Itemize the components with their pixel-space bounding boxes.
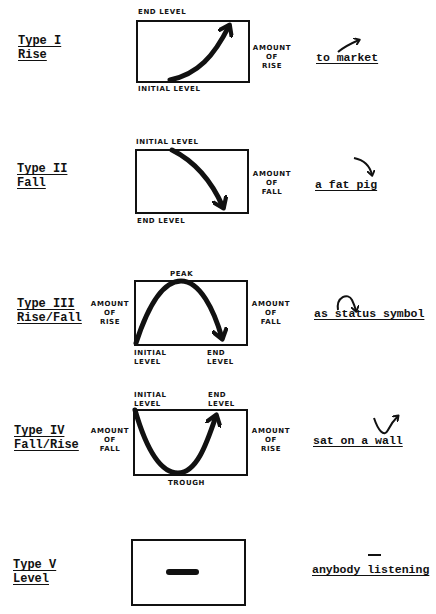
type-5-name: Level (13, 572, 56, 586)
label-line: FALL (251, 318, 291, 327)
fall-arrow-icon (172, 150, 223, 207)
amount-of-fall-label: AMOUNT OF FALL (89, 427, 131, 454)
type-3-label: Type III Rise/Fall (17, 297, 82, 325)
label-line: OF (89, 436, 131, 445)
initial-level-label: INITIAL LEVEL (134, 391, 167, 409)
type-1-number: Type I (18, 34, 61, 48)
label-line: AMOUNT (250, 427, 292, 436)
type-2-number: Type II (17, 162, 67, 176)
label-line: AMOUNT (251, 300, 291, 309)
label-line: INITIAL (134, 391, 167, 400)
rise-fall-arrow-icon (136, 281, 222, 343)
type-4-number: Type IV (14, 424, 79, 438)
small-fall-arrow-icon (354, 158, 372, 175)
label-line: LEVEL (134, 358, 167, 367)
type-1-name: Rise (18, 48, 61, 62)
label-line: AMOUNT (252, 44, 292, 53)
label-line: OF (252, 179, 292, 188)
fall-rise-arrow-icon (135, 410, 216, 473)
label-line: END (207, 349, 234, 358)
peak-label: PEAK (170, 270, 193, 279)
trough-label: TROUGH (168, 479, 205, 488)
label-line: AMOUNT (252, 170, 292, 179)
end-level-label: END LEVEL (208, 391, 235, 409)
example-phrase-3: as status symbol (314, 307, 424, 320)
rise-arrow-icon (170, 26, 229, 80)
type-4-label: Type IV Fall/Rise (14, 424, 79, 452)
label-line: LEVEL (208, 400, 235, 409)
type-3-name: Rise/Fall (17, 311, 82, 325)
label-line: RISE (250, 445, 292, 454)
label-line: OF (250, 436, 292, 445)
initial-level-label: INITIAL LEVEL (138, 85, 200, 94)
end-level-label: END LEVEL (138, 8, 186, 17)
end-level-label: END LEVEL (137, 217, 185, 226)
label-line: INITIAL (134, 349, 167, 358)
label-line: OF (251, 309, 291, 318)
type-3-number: Type III (17, 297, 82, 311)
amount-of-fall-label: AMOUNT OF FALL (252, 170, 292, 197)
example-phrase-4: sat on a wall (313, 434, 403, 447)
type-2-name: Fall (17, 176, 67, 190)
label-line: RISE (252, 62, 292, 71)
label-line: LEVEL (134, 400, 167, 409)
initial-level-label: INITIAL LEVEL (136, 138, 198, 147)
amount-of-fall-label: AMOUNT OF FALL (251, 300, 291, 327)
end-level-label: END LEVEL (207, 349, 234, 367)
example-phrase-2: a fat pig (315, 178, 377, 191)
type-5-number: Type V (13, 558, 56, 572)
amount-of-rise-label: AMOUNT OF RISE (250, 427, 292, 454)
label-line: FALL (252, 188, 292, 197)
example-phrase-1: to market (316, 51, 378, 64)
label-line: AMOUNT (90, 300, 130, 309)
type-2-label: Type II Fall (17, 162, 67, 190)
amount-of-rise-label: AMOUNT OF RISE (90, 300, 130, 327)
type-5-label: Type V Level (13, 558, 56, 586)
label-line: RISE (90, 318, 130, 327)
example-phrase-5: anybody listening (312, 563, 429, 576)
type-4-name: Fall/Rise (14, 438, 79, 452)
initial-level-label: INITIAL LEVEL (134, 349, 167, 367)
label-line: AMOUNT (89, 427, 131, 436)
label-line: OF (252, 53, 292, 62)
type-1-label: Type I Rise (18, 34, 61, 62)
label-line: OF (90, 309, 130, 318)
label-line: END (208, 391, 235, 400)
small-fall-rise-arrow-icon (374, 416, 398, 433)
label-line: LEVEL (207, 358, 234, 367)
label-line: FALL (89, 445, 131, 454)
amount-of-rise-label: AMOUNT OF RISE (252, 44, 292, 71)
